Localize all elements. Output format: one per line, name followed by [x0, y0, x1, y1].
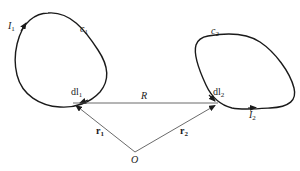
- vector-r2: [135, 106, 215, 153]
- curve-label-c2: c2: [211, 25, 219, 38]
- element-label-dl1: dl1: [71, 86, 83, 99]
- vector-label-r2: r2: [180, 125, 188, 138]
- origin-label-O: O: [131, 154, 138, 165]
- loop-c1: [15, 13, 106, 107]
- current-arrow-icon-2: [248, 108, 256, 109]
- element-label-dl2: dl2: [213, 86, 225, 99]
- current-arrow-icon-1: [21, 23, 26, 31]
- vector-r1: [76, 106, 135, 153]
- current-label-I2: I2: [248, 109, 256, 122]
- current-label-I1: I1: [7, 20, 15, 33]
- diagram-canvas: I1 c1 dl1 c2 dl2 I2 R O r1 r2: [0, 0, 300, 171]
- separation-label-R: R: [140, 90, 147, 101]
- loop-c2: [195, 34, 294, 109]
- curve-label-c1: c1: [80, 23, 88, 36]
